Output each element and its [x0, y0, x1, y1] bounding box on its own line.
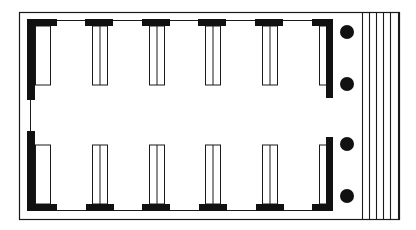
bottom-pilaster-0	[36, 145, 51, 204]
bottom-pier-2	[142, 204, 170, 211]
floor-plan-diagram	[0, 0, 416, 230]
bottom-pier-1	[86, 204, 114, 211]
outer-border-rect	[20, 13, 400, 220]
column-circle-0	[340, 25, 354, 39]
bottom-pier-4	[256, 204, 284, 211]
walls	[27, 20, 333, 211]
top-pier-5	[312, 19, 333, 26]
outer-border	[20, 13, 400, 220]
piers	[27, 19, 333, 211]
top-pier-3	[198, 19, 226, 26]
top-pilaster-0	[36, 26, 51, 85]
right-wall-bottom	[326, 137, 333, 211]
top-pier-4	[255, 19, 283, 26]
column-circle-1	[340, 77, 354, 91]
left-wall-bottom	[27, 131, 35, 211]
column-circle-2	[340, 137, 354, 151]
steps-stripes	[363, 12, 399, 220]
left-wall-top	[27, 20, 35, 100]
top-pier-1	[85, 19, 113, 26]
right-wall-top	[326, 20, 333, 98]
pilasters	[36, 26, 328, 204]
bottom-pier-0	[27, 204, 57, 211]
top-pier-2	[142, 19, 170, 26]
top-pier-0	[27, 19, 57, 26]
column-circle-3	[340, 189, 354, 203]
columns	[340, 25, 354, 203]
bottom-pier-3	[199, 204, 227, 211]
bottom-pier-5	[312, 204, 333, 211]
